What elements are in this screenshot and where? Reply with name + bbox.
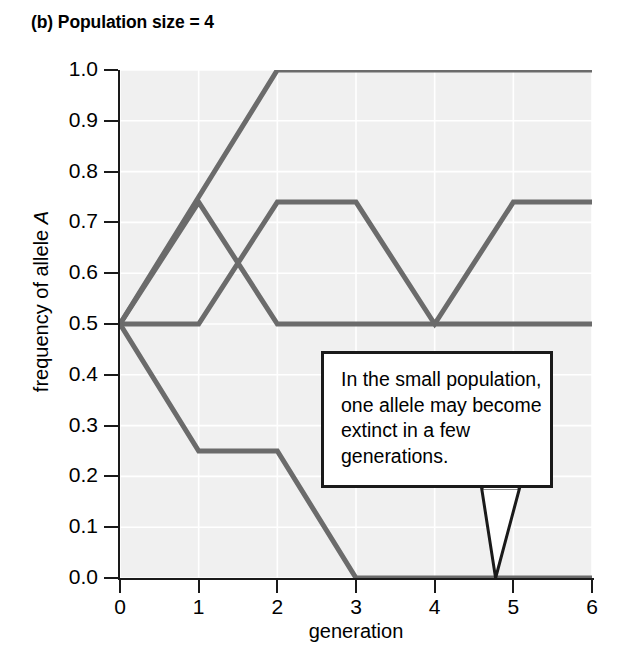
y-tick-label: 0.5 — [69, 311, 98, 335]
x-tick-label: 2 — [257, 595, 297, 619]
plot-area — [120, 70, 592, 578]
x-tick-label: 0 — [100, 595, 140, 619]
y-tick-mark — [104, 374, 118, 376]
x-tick-mark — [591, 580, 593, 593]
annotation-text: In the small population, one allele may … — [341, 367, 546, 469]
x-tick-label: 6 — [572, 595, 612, 619]
y-tick-mark — [104, 69, 118, 71]
y-tick-mark — [104, 221, 118, 223]
y-tick-label: 0.4 — [69, 362, 98, 386]
y-tick-label: 0.3 — [69, 413, 98, 437]
annotation-callout: In the small population, one allele may … — [321, 351, 553, 488]
y-axis-label: frequency of allele A — [30, 157, 53, 447]
y-tick-mark — [104, 120, 118, 122]
x-axis-label: generation — [120, 620, 592, 643]
y-tick-label: 0.9 — [69, 108, 98, 132]
figure-panel: (b) Population size = 4 0.00.10.20.30.40… — [0, 0, 625, 671]
page-title: (b) Population size = 4 — [31, 12, 214, 33]
x-tick-label: 5 — [493, 595, 533, 619]
data-series-layer — [120, 70, 592, 578]
x-tick-label: 3 — [336, 595, 376, 619]
x-tick-label: 1 — [179, 595, 219, 619]
x-tick-mark — [119, 580, 121, 593]
x-tick-mark — [434, 580, 436, 593]
data-series-replicate-2-fluctuating — [120, 202, 592, 324]
y-tick-mark — [104, 323, 118, 325]
y-tick-mark — [104, 171, 118, 173]
x-tick-label: 4 — [415, 595, 455, 619]
y-tick-mark — [104, 425, 118, 427]
y-axis-line — [118, 70, 120, 580]
y-tick-label: 1.0 — [69, 57, 98, 81]
y-tick-label: 0.7 — [69, 209, 98, 233]
y-tick-label: 0.2 — [69, 463, 98, 487]
y-tick-label: 0.6 — [69, 260, 98, 284]
allele-symbol: A — [30, 211, 52, 224]
y-tick-mark — [104, 577, 118, 579]
y-tick-label: 0.0 — [69, 565, 98, 589]
y-tick-label: 0.1 — [69, 514, 98, 538]
x-tick-mark — [355, 580, 357, 593]
data-series-replicate-3-stable — [120, 202, 592, 324]
x-tick-mark — [512, 580, 514, 593]
data-series-replicate-1-fixed — [120, 70, 592, 324]
y-tick-label: 0.8 — [69, 159, 98, 183]
x-tick-mark — [198, 580, 200, 593]
y-tick-mark — [104, 526, 118, 528]
y-tick-mark — [104, 475, 118, 477]
y-tick-mark — [104, 272, 118, 274]
x-tick-mark — [276, 580, 278, 593]
